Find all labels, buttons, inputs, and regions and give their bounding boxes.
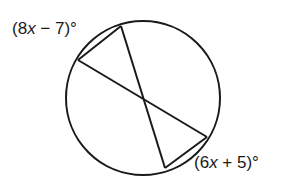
arc-label-bottom-right-open: (6	[194, 153, 209, 172]
arc-label-top-left-var: x	[27, 19, 36, 38]
arc-label-top-left-rest: − 7)°	[36, 19, 77, 38]
arc-label-top-left-open: (8	[12, 19, 27, 38]
arc-label-bottom-right-rest: + 5)°	[218, 153, 259, 172]
arc-label-bottom-right: (6x + 5)°	[194, 154, 259, 171]
chord-bd	[121, 26, 165, 168]
chord-ab	[78, 26, 121, 60]
arc-label-bottom-right-var: x	[209, 153, 218, 172]
arc-label-top-left: (8x − 7)°	[12, 20, 77, 37]
